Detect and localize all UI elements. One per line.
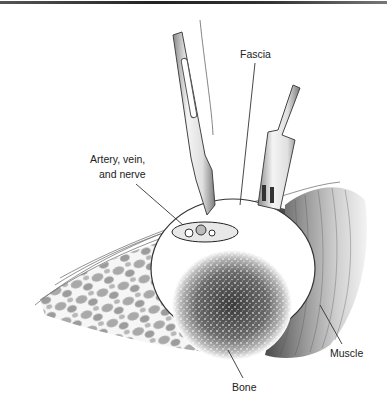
surgical-illustration xyxy=(0,0,387,410)
label-artery-vein-line1: Artery, vein, xyxy=(90,153,145,166)
scalpel xyxy=(173,20,215,215)
label-bone: Bone xyxy=(232,381,257,394)
artery-leader-line xyxy=(136,184,183,225)
label-muscle: Muscle xyxy=(330,347,363,360)
retractor xyxy=(258,85,300,210)
fascia-leader-line xyxy=(240,63,255,205)
label-fascia: Fascia xyxy=(240,48,271,61)
label-artery-vein-line2: and nerve xyxy=(99,168,146,181)
neurovascular-bundle xyxy=(172,222,238,242)
